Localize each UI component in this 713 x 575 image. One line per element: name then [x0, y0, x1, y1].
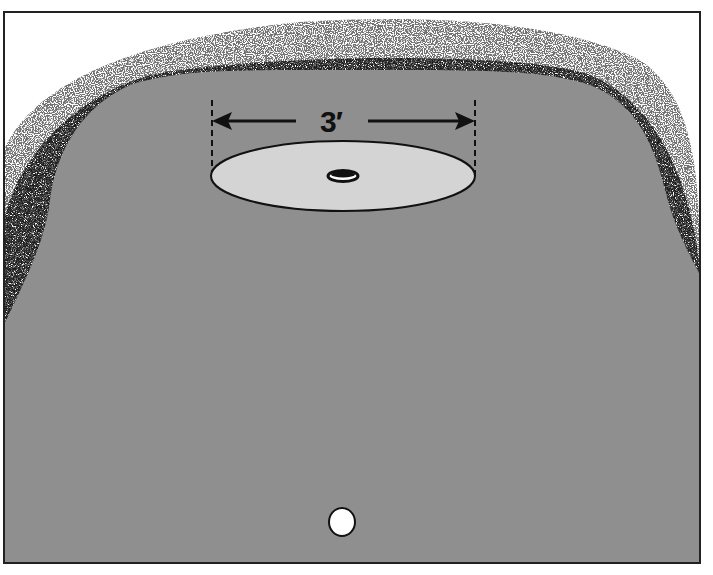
golf-ball-icon	[329, 508, 355, 536]
diagram-canvas	[0, 0, 713, 575]
golf-green-diagram: 3′	[0, 0, 713, 575]
dimension-label: 3′	[296, 105, 366, 139]
hole-icon	[328, 171, 358, 182]
